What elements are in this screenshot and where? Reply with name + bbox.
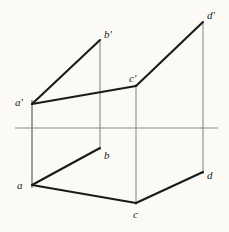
vertex-label-a: a bbox=[17, 180, 23, 191]
vertex-label-d: d bbox=[207, 170, 213, 181]
vertex-label-b: b bbox=[104, 150, 110, 161]
edge-a-c bbox=[32, 185, 136, 203]
edge-c-d bbox=[136, 172, 203, 203]
vertex-label-a-prime: a' bbox=[15, 97, 23, 108]
edge-a-b bbox=[32, 148, 100, 185]
vertex-label-c-prime: c' bbox=[129, 73, 136, 84]
projector-line-group bbox=[32, 22, 203, 205]
vertex-label-b-prime: b' bbox=[104, 29, 112, 40]
edge-group bbox=[32, 22, 203, 203]
edge-c-prime-d-prime bbox=[136, 22, 203, 86]
projection-figure bbox=[0, 0, 229, 232]
vertex-label-d-prime: d' bbox=[207, 10, 215, 21]
vertex-label-c: c bbox=[133, 209, 138, 220]
drawing-canvas: a' b' c' d' a b c d bbox=[0, 0, 229, 232]
